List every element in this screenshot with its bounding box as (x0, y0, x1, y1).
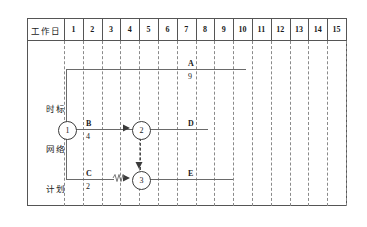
column-header-day-5: 5 (139, 19, 158, 40)
label-activity-a: A (187, 59, 195, 68)
header-separator (290, 19, 291, 40)
row-label-plan: 计划 (28, 182, 84, 194)
header-label-workday: 工作日 (28, 19, 64, 40)
header-separator (83, 19, 84, 40)
gridline-day-14 (308, 41, 309, 206)
header-separator (214, 19, 215, 40)
header-separator (102, 19, 103, 40)
header-separator (139, 19, 140, 40)
header-separator (196, 19, 197, 40)
header-separator (308, 19, 309, 40)
duration-activity-b: 4 (85, 132, 91, 141)
column-header-day-8: 8 (196, 19, 215, 40)
gridline-day-10 (233, 41, 234, 206)
duration-activity-a: 9 (187, 72, 193, 81)
label-activity-c: C (85, 169, 93, 178)
activity-line-b (75, 129, 136, 130)
gridline-day-3 (102, 41, 103, 206)
column-header-day-1: 1 (64, 19, 83, 40)
table-header-row: 工作日 123456789101112131415 (28, 19, 346, 41)
row-label-timescale: 时标 (28, 102, 84, 114)
gridline-day-9 (214, 41, 215, 206)
gridline-day-8 (196, 41, 197, 206)
column-header-day-12: 12 (271, 19, 290, 40)
node-3[interactable]: 3 (132, 171, 151, 190)
header-separator (252, 19, 253, 40)
duration-activity-c: 2 (85, 182, 91, 191)
node-2[interactable]: 2 (132, 121, 151, 140)
column-header-day-14: 14 (308, 19, 327, 40)
header-separator (233, 19, 234, 40)
label-activity-d: D (187, 119, 195, 128)
label-activity-b: B (85, 119, 92, 128)
label-activity-e: E (187, 169, 194, 178)
gridline-day-13 (290, 41, 291, 206)
gridline-day-11 (252, 41, 253, 206)
column-header-day-9: 9 (214, 19, 233, 40)
activity-line-e (149, 179, 233, 180)
top-note (6, 0, 9, 8)
dummy-link-2-to-3 (140, 138, 141, 170)
node-1[interactable]: 1 (58, 121, 77, 140)
column-header-day-2: 2 (83, 19, 102, 40)
column-header-day-4: 4 (120, 19, 139, 40)
activity-line-d (149, 129, 208, 130)
row-label-network: 网络 (28, 142, 84, 154)
schedule-table: 工作日 123456789101112131415 时标 网络 计划 1 2 3… (27, 18, 347, 206)
column-header-day-6: 6 (158, 19, 177, 40)
column-header-day-10: 10 (233, 19, 252, 40)
header-separator (177, 19, 178, 40)
header-separator (327, 19, 328, 40)
gridline-day-6 (158, 41, 159, 206)
gridline-day-15 (327, 41, 328, 206)
column-header-day-13: 13 (290, 19, 309, 40)
header-separator (120, 19, 121, 40)
gridline-day-7 (177, 41, 178, 206)
gridline-end (346, 41, 347, 206)
column-header-day-15: 15 (327, 19, 346, 40)
activity-line-a (66, 69, 246, 70)
activity-line-c (66, 179, 114, 180)
column-header-day-3: 3 (102, 19, 121, 40)
gridline-day-4 (120, 41, 121, 206)
network-schedule-figure: 工作日 123456789101112131415 时标 网络 计划 1 2 3… (0, 0, 367, 227)
gridline-day-12 (271, 41, 272, 206)
header-separator (271, 19, 272, 40)
header-separator (158, 19, 159, 40)
column-header-day-7: 7 (177, 19, 196, 40)
column-header-day-11: 11 (252, 19, 271, 40)
